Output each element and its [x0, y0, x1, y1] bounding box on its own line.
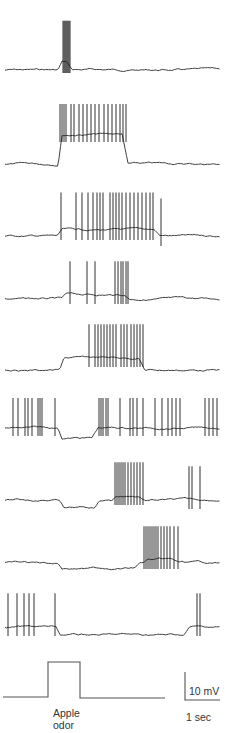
stimulus-label-line1: Apple: [53, 707, 80, 719]
stimulus-and-scale: [0, 0, 227, 733]
stimulus-label: Apple odor: [53, 707, 80, 731]
stimulus-waveform: [3, 662, 165, 698]
scale-voltage-label: 10 mV: [189, 685, 219, 697]
stimulus-label-line2: odor: [53, 719, 80, 731]
scale-time-label: 1 sec: [186, 711, 211, 723]
